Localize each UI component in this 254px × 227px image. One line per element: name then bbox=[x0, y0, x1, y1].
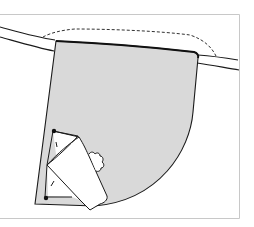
pin-top-icon bbox=[52, 129, 56, 133]
pocket-diagram bbox=[0, 0, 254, 227]
illustration bbox=[0, 0, 254, 227]
pin-bottom-icon bbox=[44, 196, 48, 200]
